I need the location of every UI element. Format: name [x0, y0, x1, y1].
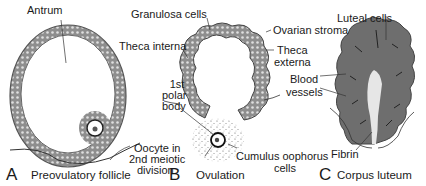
- label-fibrin: Fibrin: [331, 148, 359, 160]
- diagram-artwork: [0, 0, 426, 186]
- panel-letter-a: A: [6, 166, 17, 184]
- panel-letter-c: C: [319, 166, 331, 184]
- label-blood-line1: Blood: [290, 73, 318, 85]
- label-polar-line3: body: [162, 100, 186, 112]
- caption-preovulatory-follicle: Preovulatory follicle: [31, 169, 131, 182]
- label-ovarian-stroma: Ovarian stroma: [273, 24, 348, 36]
- label-cumulus-line1: Cumulus oophorus: [236, 150, 328, 162]
- caption-corpus-luteum: Corpus luteum: [337, 169, 412, 182]
- panel-letter-b: B: [169, 166, 180, 184]
- label-granulosa-cells: Granulosa cells: [131, 8, 207, 20]
- label-blood-line2: vessels: [286, 86, 323, 98]
- label-theca-externa-line2: externa: [274, 56, 311, 68]
- label-cumulus-line2: cells: [274, 162, 296, 174]
- label-theca-interna: Theca interna: [119, 40, 186, 52]
- label-antrum: Antrum: [27, 4, 62, 16]
- label-luteal-cells: Luteal cells: [337, 12, 392, 24]
- corpus-luteum-drawing: [320, 16, 415, 150]
- caption-ovulation: Ovulation: [196, 169, 245, 182]
- label-theca-externa-line1: Theca: [277, 44, 308, 56]
